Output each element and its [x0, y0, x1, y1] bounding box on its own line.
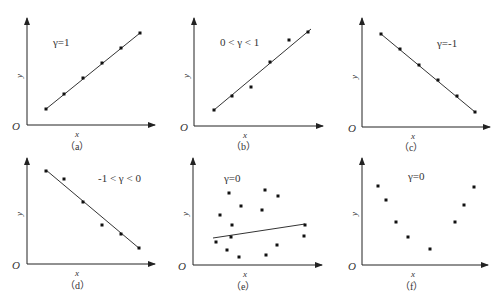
panel-a: γ=1 O x y （a）: [12, 18, 155, 152]
origin-label: O: [12, 120, 20, 132]
x-axis-label: x: [74, 268, 79, 278]
panel-f: γ=0 O x y （f）: [348, 158, 488, 292]
origin-label: O: [348, 260, 356, 272]
fit-line: [213, 224, 305, 238]
data-points: [377, 185, 476, 251]
x-axis-label: x: [410, 131, 415, 141]
chart-caption: （d）: [65, 280, 90, 291]
correlation-figure: γ=1 O x y （a） 0 < γ < 1 O x y （b）: [0, 0, 501, 305]
origin-label: O: [180, 121, 188, 133]
origin-label: O: [348, 122, 356, 134]
chart-caption: （e）: [231, 281, 255, 292]
panel-d: -1 < γ < 0 O x y （d）: [12, 158, 155, 291]
origin-label: O: [178, 260, 186, 272]
fit-line: [381, 34, 475, 112]
x-axis-label: x: [74, 129, 79, 139]
chart-title: 0 < γ < 1: [220, 36, 259, 48]
panel-e: γ=0 O x y （e）: [178, 158, 322, 292]
chart-title: γ=-1: [436, 37, 457, 49]
chart-title: γ=0: [223, 172, 241, 184]
x-axis-label: x: [242, 130, 247, 140]
x-axis-label: x: [410, 269, 415, 279]
y-axis-label: y: [14, 212, 24, 217]
chart-caption: （a）: [65, 141, 89, 152]
chart-title: γ=1: [52, 36, 70, 48]
y-axis-label: y: [181, 74, 191, 79]
y-axis-label: y: [349, 75, 359, 80]
y-axis-label: y: [180, 212, 190, 217]
y-axis-label: y: [14, 74, 24, 79]
x-axis-label: x: [242, 269, 247, 279]
chart-title: -1 < γ < 0: [98, 172, 141, 184]
y-axis-label: y: [349, 212, 359, 217]
chart-caption: （c）: [399, 142, 423, 153]
panel-c: γ=-1 O x y （c）: [348, 18, 490, 153]
chart-caption: （f）: [400, 281, 423, 292]
panel-b: 0 < γ < 1 O x y （b）: [180, 18, 323, 152]
chart-caption: （b）: [231, 141, 256, 152]
data-points: [215, 189, 307, 259]
origin-label: O: [12, 259, 20, 271]
chart-title: γ=0: [407, 170, 425, 182]
